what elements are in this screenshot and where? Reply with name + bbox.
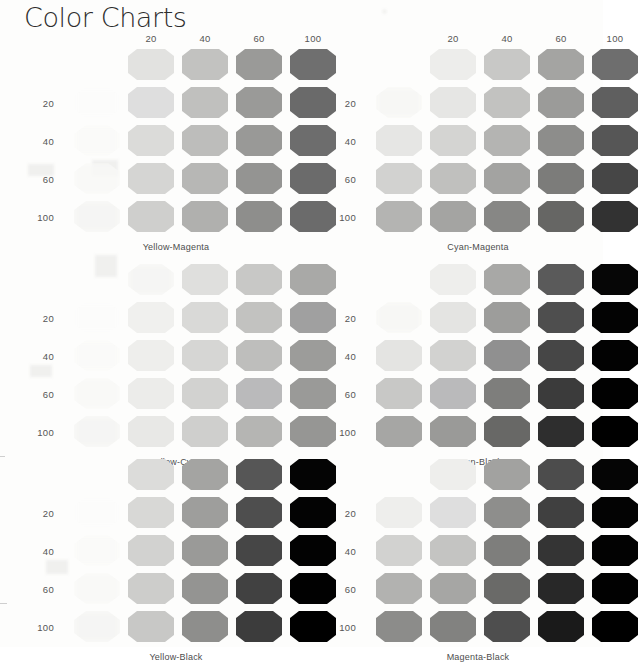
- color-swatch: [538, 573, 584, 604]
- color-swatch: [182, 87, 228, 118]
- color-swatch: [74, 125, 120, 156]
- row-header-label: 60: [322, 584, 356, 595]
- color-swatch: [484, 125, 530, 156]
- color-swatch: [182, 378, 228, 409]
- color-swatch: [430, 416, 476, 447]
- color-swatch: [430, 611, 476, 642]
- color-swatch: [74, 497, 120, 528]
- color-swatch: [592, 497, 638, 528]
- color-swatch: [592, 163, 638, 194]
- color-swatch: [538, 535, 584, 566]
- color-swatch: [538, 163, 584, 194]
- color-swatch: [430, 125, 476, 156]
- color-swatch: [376, 497, 422, 528]
- row-header-label: 100: [322, 427, 356, 438]
- row-header-label: 60: [20, 584, 54, 595]
- color-swatch: [128, 378, 174, 409]
- color-swatch: [128, 459, 174, 490]
- color-swatch: [74, 163, 120, 194]
- row-header-label: 20: [322, 313, 356, 324]
- color-swatch: [128, 125, 174, 156]
- color-swatch: [182, 201, 228, 232]
- color-swatch: [236, 49, 282, 80]
- color-swatch: [182, 302, 228, 333]
- chart-caption: Cyan-Magenta: [348, 242, 608, 252]
- color-swatch: [128, 201, 174, 232]
- scan-artifact: [95, 255, 117, 277]
- color-swatch: [236, 302, 282, 333]
- color-swatch: [538, 87, 584, 118]
- column-header-label: 20: [127, 33, 175, 44]
- color-swatch: [74, 340, 120, 371]
- color-swatch: [74, 611, 120, 642]
- row-header-label: 40: [322, 546, 356, 557]
- color-swatch: [236, 87, 282, 118]
- column-header-label: 100: [289, 33, 337, 44]
- color-swatch: [128, 49, 174, 80]
- scan-artifact: [30, 365, 52, 377]
- row-header-label: 40: [322, 136, 356, 147]
- color-swatch: [430, 497, 476, 528]
- scan-artifact: [46, 560, 68, 574]
- color-swatch: [430, 87, 476, 118]
- chart-caption: Yellow-Magenta: [46, 242, 306, 252]
- color-swatch: [236, 497, 282, 528]
- color-swatch: [376, 302, 422, 333]
- color-swatch: [538, 416, 584, 447]
- color-swatch: [538, 459, 584, 490]
- color-swatch: [538, 340, 584, 371]
- color-swatch: [484, 201, 530, 232]
- color-swatch: [236, 340, 282, 371]
- color-swatch: [376, 201, 422, 232]
- color-swatch: [484, 378, 530, 409]
- color-swatch: [128, 535, 174, 566]
- color-swatch: [592, 302, 638, 333]
- chart-caption: Magenta-Black: [348, 652, 608, 662]
- row-header-label: 20: [322, 508, 356, 519]
- color-swatch: [376, 416, 422, 447]
- color-swatch: [236, 163, 282, 194]
- color-swatch: [484, 302, 530, 333]
- color-swatch: [182, 340, 228, 371]
- color-swatch: [128, 87, 174, 118]
- row-header-label: 60: [20, 174, 54, 185]
- color-swatch: [182, 497, 228, 528]
- color-swatch: [484, 87, 530, 118]
- color-swatch: [182, 416, 228, 447]
- row-header-label: 20: [322, 98, 356, 109]
- color-swatch: [538, 497, 584, 528]
- color-swatch: [74, 302, 120, 333]
- color-swatch: [538, 264, 584, 295]
- color-swatch: [74, 201, 120, 232]
- row-header-label: 20: [20, 313, 54, 324]
- color-swatch: [128, 497, 174, 528]
- row-header-label: 40: [20, 351, 54, 362]
- color-swatch: [128, 302, 174, 333]
- color-swatch: [236, 264, 282, 295]
- color-swatch: [592, 340, 638, 371]
- row-header-label: 60: [20, 389, 54, 400]
- color-swatch: [430, 459, 476, 490]
- color-swatch: [592, 459, 638, 490]
- color-swatch: [430, 535, 476, 566]
- column-header-label: 40: [483, 33, 531, 44]
- color-swatch: [484, 163, 530, 194]
- color-swatch: [592, 49, 638, 80]
- color-swatch: [430, 201, 476, 232]
- color-swatch: [484, 340, 530, 371]
- color-swatch: [290, 264, 336, 295]
- row-header-label: 20: [20, 98, 54, 109]
- color-swatch: [592, 573, 638, 604]
- color-swatch: [74, 573, 120, 604]
- color-swatch: [376, 535, 422, 566]
- scan-edge-tick: [0, 603, 7, 604]
- scan-edge-tick: [0, 456, 5, 457]
- color-swatch: [376, 378, 422, 409]
- color-swatch: [484, 611, 530, 642]
- color-swatch: [236, 573, 282, 604]
- color-swatch: [484, 416, 530, 447]
- chart-caption: Yellow-Black: [46, 652, 306, 662]
- color-swatch: [592, 125, 638, 156]
- color-swatch: [430, 302, 476, 333]
- column-header-label: 40: [181, 33, 229, 44]
